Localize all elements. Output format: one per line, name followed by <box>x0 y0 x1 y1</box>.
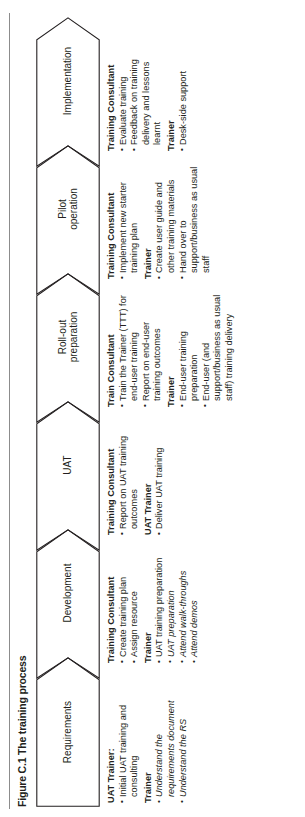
role-heading: Trainer <box>143 689 155 803</box>
chevron-shape-requirements <box>36 657 100 807</box>
chevron-shape-pilot-operation <box>36 145 100 295</box>
role-heading: Trainer <box>166 293 178 407</box>
activity-bullet: End-user training preparation <box>178 293 201 407</box>
activity-bullet: Train the Trainer (TTT) for end-user tra… <box>118 293 141 407</box>
activity-bullet: UAT training preparation <box>154 549 166 663</box>
figure-container: Figure C.1 The training process Requirem… <box>0 0 305 817</box>
activity-bullet: Report on UAT training outcomes <box>118 421 141 535</box>
activity-bullet: Feedback on training delivery and lesson… <box>129 37 164 151</box>
activity-bullet: Desk-side support <box>178 37 190 151</box>
activity-bullet: Understand the requirements document <box>154 689 177 803</box>
role-heading: Trainer <box>166 37 178 151</box>
process-chevron-band: RequirementsDevelopmentUATRoll-outprepar… <box>36 17 100 807</box>
role-heading: Train Consultant <box>106 293 118 407</box>
rotated-figure-canvas: Figure C.1 The training process Requirem… <box>0 0 305 817</box>
role-heading: Training Consultant <box>106 165 118 279</box>
stage-chevron-pilot-operation[interactable]: Pilotoperation <box>36 145 100 295</box>
activity-bullet: Attend walk-throughs <box>178 549 190 663</box>
stage-column-uat: Training ConsultantReport on UAT trainin… <box>106 421 166 535</box>
role-heading: Training Consultant <box>106 421 118 535</box>
stage-column-development: Training ConsultantCreate training planA… <box>106 549 201 663</box>
role-heading: Trainer <box>143 549 155 663</box>
figure-title: Figure C.1 The training process <box>16 656 28 807</box>
activity-bullet: Create user guide and other training mat… <box>154 165 177 279</box>
role-heading: Trainer <box>143 165 155 279</box>
stage-detail-columns: UAT Trainer:Initial UAT training and con… <box>106 17 298 807</box>
stage-chevron-uat[interactable]: UAT <box>36 401 100 551</box>
role-heading: Training Consultant <box>106 549 118 663</box>
activity-bullet: Create training plan <box>118 549 130 663</box>
activity-bullet: UAT preparation <box>166 549 178 663</box>
stage-chevron-development[interactable]: Development <box>36 529 100 679</box>
chevron-shape-roll-out-preparation <box>36 273 100 423</box>
activity-bullet: Report on end-user training outcomes <box>141 293 164 407</box>
stage-column-implementation: Training ConsultantEvaluate trainingFeed… <box>106 37 189 151</box>
activity-bullet: Understand the RS <box>178 689 190 803</box>
chevron-shape-implementation <box>36 17 100 167</box>
stage-column-roll-out-preparation: Train ConsultantTrain the Trainer (TTT) … <box>106 293 236 407</box>
activity-bullet: Attend demos <box>189 549 201 663</box>
activity-bullet: Evaluate training <box>118 37 130 151</box>
stage-chevron-implementation[interactable]: Implementation <box>36 17 100 167</box>
activity-bullet: Deliver UAT training <box>154 421 166 535</box>
activity-bullet: End-user (and support/business as usual … <box>201 293 236 407</box>
stage-column-pilot-operation: Training ConsultantImplement new starter… <box>106 165 212 279</box>
chevron-shape-development <box>36 529 100 679</box>
role-heading: Training Consultant <box>106 37 118 151</box>
figure-top-rule <box>9 13 10 809</box>
stage-chevron-roll-out-preparation[interactable]: Roll-outpreparation <box>36 273 100 423</box>
chevron-shape-uat <box>36 401 100 551</box>
activity-bullet: Hand over to support/business as usual s… <box>178 165 213 279</box>
activity-bullet: Implement new starter training plan <box>118 165 141 279</box>
activity-bullet: Initial UAT training and consulting <box>118 689 141 803</box>
stage-chevron-requirements[interactable]: Requirements <box>36 657 100 807</box>
activity-bullet: Assign resource <box>129 549 141 663</box>
stage-column-requirements: UAT Trainer:Initial UAT training and con… <box>106 689 189 803</box>
role-heading: UAT Trainer <box>143 421 155 535</box>
role-heading: UAT Trainer: <box>106 689 118 803</box>
